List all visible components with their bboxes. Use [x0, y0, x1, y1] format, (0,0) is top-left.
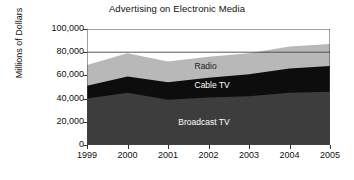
stacked-area-svg: [87, 29, 330, 145]
x-tick-mark: [290, 145, 291, 149]
y-tick-label: 0: [0, 139, 89, 149]
y-tick-label: 60,000: [0, 69, 89, 79]
x-tick-label: 2000: [108, 150, 148, 160]
y-tick-label: 40,000: [0, 93, 89, 103]
y-tick-label: 100,000: [0, 23, 89, 33]
x-tick-mark: [168, 145, 169, 149]
y-tick-label: 20,000: [0, 116, 89, 126]
x-tick-label: 2002: [189, 150, 229, 160]
chart-title: Advertising on Electronic Media: [0, 3, 354, 14]
x-tick-label: 2003: [229, 150, 269, 160]
chart-figure: Advertising on Electronic Media Millions…: [0, 0, 354, 180]
x-tick-mark: [128, 145, 129, 149]
x-tick-mark: [87, 145, 88, 149]
x-tick-label: 2001: [148, 150, 188, 160]
y-tick-label: 80,000: [0, 46, 89, 56]
x-tick-mark: [249, 145, 250, 149]
area-series-broadcast-tv: [87, 92, 330, 145]
x-tick-label: 2004: [270, 150, 310, 160]
x-tick-mark: [209, 145, 210, 149]
x-tick-mark: [330, 145, 331, 149]
x-tick-label: 1999: [67, 150, 107, 160]
plot-area: [87, 29, 330, 145]
x-tick-label: 2005: [310, 150, 350, 160]
